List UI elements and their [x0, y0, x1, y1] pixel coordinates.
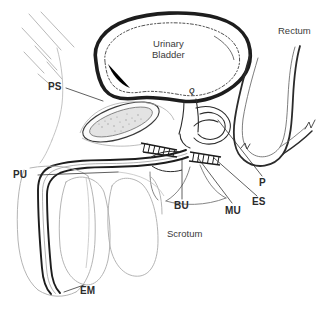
anatomical-diagram: Urinary Bladder Rectum Scrotum PS PU BU … [0, 0, 333, 311]
label-rectum: Rectum [278, 25, 311, 36]
label-em: EM [80, 285, 95, 297]
anal-sphincter-marks [241, 120, 315, 149]
external-sphincter-hatching [189, 152, 221, 165]
bladder-neck [179, 99, 198, 148]
label-urinary-bladder-line1: Urinary [152, 38, 185, 49]
label-bladder-neck-mark: Q [189, 87, 194, 95]
abdominal-wall-hatching [22, 12, 74, 88]
rectum-tube [234, 46, 312, 166]
label-mu: MU [225, 205, 241, 217]
label-bu: BU [174, 200, 189, 212]
testis-left [59, 177, 110, 285]
leader-ps [66, 88, 103, 101]
scrotal-septum [86, 172, 164, 268]
body-contour-left [40, 48, 63, 163]
label-ps: PS [48, 81, 62, 93]
label-urinary-bladder-line2: Bladder [152, 49, 185, 60]
label-urinary-bladder: Urinary Bladder [152, 38, 185, 60]
testis-right [108, 176, 162, 276]
label-pu: PU [13, 169, 27, 181]
label-scrotum: Scrotum [167, 228, 202, 239]
scrotum-contours [17, 166, 95, 296]
label-p: P [259, 177, 266, 189]
label-es: ES [252, 196, 266, 208]
seminal-vesicle [194, 106, 230, 144]
